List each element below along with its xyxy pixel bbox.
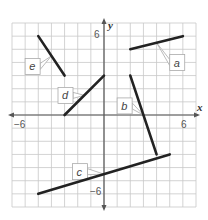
y-pos-tick-label: 6: [94, 29, 100, 40]
segment-label-c: c: [76, 166, 82, 178]
segment-label-e: e: [29, 60, 35, 72]
x-axis-arrow-right-icon: [194, 113, 200, 118]
x-pos-tick-label: 6: [181, 119, 187, 130]
y-axis-arrow-up-icon: [102, 18, 107, 24]
y-neg-tick-label: −6: [90, 186, 102, 197]
x-axis-arrow-left-icon: [8, 113, 14, 118]
segment-label-a: a: [174, 57, 180, 69]
coordinate-graph: −6 6 6 −6 x y abcde: [0, 0, 208, 220]
segment-label-b: b: [121, 100, 127, 112]
x-axis-label: x: [196, 101, 203, 113]
x-neg-tick-label: −6: [14, 119, 26, 130]
y-axis-arrow-down-icon: [102, 205, 107, 211]
segment-label-d: d: [62, 89, 69, 101]
y-axis-label: y: [106, 19, 113, 31]
segment-callouts: abcde: [25, 43, 185, 180]
